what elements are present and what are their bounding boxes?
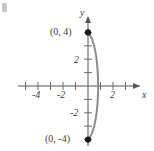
x-axis-arrow-icon [133,83,140,89]
y-tick-label-2: 2 [74,55,79,65]
y-axis-arrow-icon [85,16,91,23]
y-tick-label-neg2: -2 [70,108,78,118]
x-tick-label-neg2: -2 [57,90,65,100]
annotation-bottom-point: (0, -4) [45,134,70,144]
annotation-top-point: (0, 4) [50,27,72,37]
y-axis-label: y [80,8,84,18]
x-tick-label-2: 2 [110,90,115,100]
graph-figure: -4 -2 2 2 -2 y x (0, 4) (0, -4) [0,0,154,151]
x-axis-label: x [142,90,146,100]
point-marker-bottom [85,137,91,143]
coordinate-plane [0,0,154,151]
point-marker-top [85,29,91,35]
x-tick-label-neg4: -4 [32,90,40,100]
